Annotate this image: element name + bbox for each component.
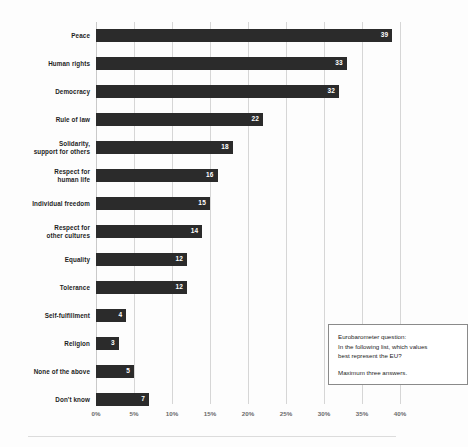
bar-row: 14: [96, 218, 400, 246]
bar: 16: [96, 169, 218, 182]
bar-value-label: 7: [141, 396, 149, 403]
category-label: Respect forother cultures: [0, 218, 90, 246]
category-label: Rule of law: [0, 106, 90, 134]
bar: 14: [96, 225, 202, 238]
category-label: Equality: [0, 246, 90, 274]
category-label: Don't know: [0, 386, 90, 414]
bar-row: 32: [96, 78, 400, 106]
bar-value-label: 16: [206, 172, 218, 179]
x-axis-tick: 20%: [242, 410, 254, 417]
x-axis-tick: 30%: [318, 410, 330, 417]
annotation-box: Eurobarometer question: In the following…: [328, 324, 468, 385]
bar: 22: [96, 113, 263, 126]
x-axis-tick: 40%: [394, 410, 406, 417]
bar-value-label: 12: [176, 284, 188, 291]
category-label: Religion: [0, 330, 90, 358]
bar-value-label: 15: [198, 200, 210, 207]
bar-row: 22: [96, 106, 400, 134]
x-axis: 0%5%10%15%20%25%30%35%40%: [96, 404, 400, 424]
category-label: Tolerance: [0, 274, 90, 302]
x-axis-tick: 35%: [356, 410, 368, 417]
annotation-line-3: best represent the EU?: [338, 351, 459, 361]
category-label: Solidarity,support for others: [0, 134, 90, 162]
bar-value-label: 5: [126, 368, 134, 375]
category-axis: PeaceHuman rightsDemocracyRule of lawSol…: [0, 22, 90, 404]
category-label: Self-fulfillment: [0, 302, 90, 330]
bar: 4: [96, 309, 126, 322]
bar-value-label: 18: [221, 144, 233, 151]
bar-row: 12: [96, 246, 400, 274]
category-label: Democracy: [0, 78, 90, 106]
bar: 3: [96, 337, 119, 350]
bar: 12: [96, 281, 187, 294]
annotation-line-4: Maximum three answers.: [338, 368, 459, 378]
annotation-line-2: In the following list, which values: [338, 342, 459, 352]
bar-value-label: 12: [176, 256, 188, 263]
bar-row: 39: [96, 22, 400, 50]
bar: 39: [96, 29, 392, 42]
bar-row: 15: [96, 190, 400, 218]
plot-area: 393332221816151412124357 Eurobarometer q…: [96, 22, 400, 404]
bar: 12: [96, 253, 187, 266]
category-label: Individual freedom: [0, 190, 90, 218]
bar-value-label: 14: [191, 228, 203, 235]
bar: 5: [96, 365, 134, 378]
bar-value-label: 32: [328, 88, 340, 95]
bar-value-label: 22: [252, 116, 264, 123]
bar-value-label: 4: [119, 312, 127, 319]
bar-row: 12: [96, 274, 400, 302]
annotation-line-1: Eurobarometer question:: [338, 332, 459, 342]
bar: 15: [96, 197, 210, 210]
category-label: Respect forhuman life: [0, 162, 90, 190]
x-axis-tick: 25%: [280, 410, 292, 417]
x-axis-tick: 10%: [166, 410, 178, 417]
x-axis-tick: 5%: [130, 410, 139, 417]
footer-divider: [28, 436, 396, 437]
bar-row: 33: [96, 50, 400, 78]
bar: 33: [96, 57, 347, 70]
bar-row: 18: [96, 134, 400, 162]
category-label: Peace: [0, 22, 90, 50]
bar-value-label: 39: [381, 32, 393, 39]
category-label: None of the above: [0, 358, 90, 386]
bar: 18: [96, 141, 233, 154]
bar-row: 16: [96, 162, 400, 190]
bar-value-label: 3: [111, 340, 119, 347]
x-axis-tick: 15%: [204, 410, 216, 417]
bar-value-label: 33: [335, 60, 347, 67]
x-axis-tick: 0%: [92, 410, 101, 417]
bar: 32: [96, 85, 339, 98]
category-label: Human rights: [0, 50, 90, 78]
